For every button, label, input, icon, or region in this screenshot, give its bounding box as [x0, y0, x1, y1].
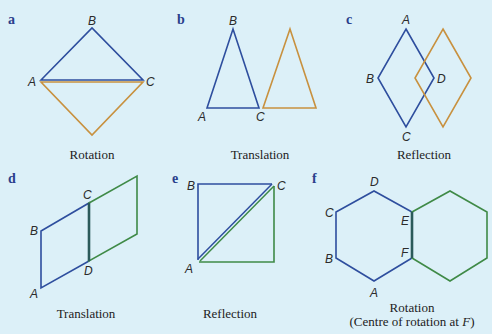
rotated-hexagon-image [412, 191, 487, 281]
panel-letter-c: c [346, 12, 352, 27]
rotated-triangle-image [41, 82, 143, 135]
caption-f-suffix: ) [470, 314, 474, 329]
original-triangle-abc [207, 29, 259, 108]
panel-letter-d: d [8, 171, 16, 186]
vertex-label-a: A [27, 75, 36, 89]
vertex-label-d: D [370, 175, 379, 189]
caption-c: Reflection [397, 147, 452, 162]
translated-parallelogram-image [89, 176, 137, 261]
vertex-label-b: B [88, 14, 96, 28]
vertex-label-a: A [369, 286, 378, 300]
caption-f-line2: (Centre of rotation at F) [350, 314, 475, 329]
original-hexagon-abcdef [336, 191, 412, 281]
original-triangle-abc [41, 28, 143, 80]
image-hypotenuse-ac [200, 186, 274, 261]
panel-e: e B A C Reflection [172, 171, 286, 321]
panel-c: c A B C D Reflection [346, 12, 471, 162]
translated-triangle-image [263, 29, 316, 108]
vertex-label-e: E [401, 214, 410, 228]
caption-f-prefix: (Centre of rotation at [350, 314, 463, 329]
original-rhombus-abcd [378, 29, 434, 127]
vertex-label-a: A [401, 13, 410, 27]
vertex-label-b: B [325, 252, 333, 266]
vertex-label-b: B [366, 72, 374, 86]
vertex-label-a: A [184, 262, 193, 276]
vertex-label-b: B [229, 14, 237, 28]
caption-b: Translation [231, 147, 290, 162]
panel-letter-a: a [8, 12, 15, 27]
vertex-label-b: B [187, 179, 195, 193]
vertex-label-c: C [146, 75, 155, 89]
panel-letter-e: e [172, 171, 178, 186]
caption-d: Translation [57, 306, 116, 321]
vertex-label-c: C [83, 188, 92, 202]
panel-f: f A B C D E F Rotation (Centre of rotati… [312, 171, 487, 329]
vertex-label-b: B [30, 224, 38, 238]
panel-letter-b: b [177, 12, 185, 27]
vertex-label-d: D [437, 72, 446, 86]
original-hypotenuse-ac [198, 184, 272, 259]
vertex-label-a: A [29, 287, 38, 301]
vertex-label-f: F [401, 246, 409, 260]
vertex-label-d: D [84, 264, 93, 278]
caption-a: Rotation [70, 147, 115, 162]
panel-letter-f: f [312, 171, 317, 186]
original-parallelogram-abcd [41, 203, 89, 288]
vertex-label-c: C [256, 110, 265, 124]
vertex-label-c: C [277, 179, 286, 193]
caption-f: Rotation [390, 300, 435, 315]
vertex-label-c: C [325, 206, 334, 220]
caption-e: Reflection [203, 306, 258, 321]
panel-d: d A B C D Translation [8, 171, 137, 321]
panel-b: b B A C Translation [177, 12, 316, 162]
transformations-figure: a B A C Rotation b B A C Translation c A… [0, 0, 492, 334]
panel-a: a B A C Rotation [8, 12, 155, 162]
vertex-label-a: A [197, 110, 206, 124]
vertex-label-c: C [402, 130, 411, 144]
